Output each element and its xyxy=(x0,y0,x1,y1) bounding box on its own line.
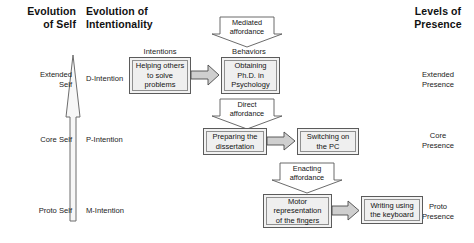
box-obtaining-phd-label: Obtaining Ph.D. in Psychology xyxy=(224,60,277,91)
presence-evolution-diagram: Evolution of Self Evolution of Intention… xyxy=(0,0,474,243)
box-preparing-dissertation-label: Preparing the dissertation xyxy=(206,131,264,152)
affordance-enacting: Enacting affordance xyxy=(272,163,342,193)
box-writing-keyboard-label: Writing using the keyboard xyxy=(364,199,420,221)
affordance-mediated: Mediated affordance xyxy=(212,17,282,47)
tier-label-core-self: Core Self xyxy=(8,135,72,145)
box-motor-representation-label: Motor representation of the fingers xyxy=(266,197,329,225)
box-switching-on-pc[interactable]: Switching on the PC xyxy=(297,128,359,155)
affordance-direct: Direct affordance xyxy=(212,99,282,129)
tier-label-extended-self: Extended Self xyxy=(8,70,72,89)
tier-label-p-intention: P-Intention xyxy=(86,135,166,145)
box-writing-keyboard[interactable]: Writing using the keyboard xyxy=(361,196,423,224)
caption-behaviors: Behaviors xyxy=(218,47,280,56)
caption-intentions: Intentions xyxy=(129,47,191,56)
flow-arrow-proto xyxy=(332,201,359,220)
heading-evolution-of-intentionality: Evolution of Intentionality xyxy=(86,5,196,30)
box-switching-on-pc-label: Switching on the PC xyxy=(300,131,356,152)
tier-label-m-intention: M-Intention xyxy=(86,206,166,216)
heading-levels-of-presence: Levels of Presence xyxy=(404,5,472,30)
flow-arrow-core xyxy=(267,132,295,150)
flow-arrow-extended xyxy=(191,65,219,85)
tier-label-proto-self: Proto Self xyxy=(8,206,72,216)
tier-label-core-presence: Core Presence xyxy=(404,131,472,150)
box-motor-representation[interactable]: Motor representation of the fingers xyxy=(263,194,332,228)
box-helping-others[interactable]: Helping others to solve problems xyxy=(129,57,191,94)
heading-evolution-of-self: Evolution of Self xyxy=(4,5,76,30)
box-obtaining-phd[interactable]: Obtaining Ph.D. in Psychology xyxy=(221,57,280,94)
tier-label-extended-presence: Extended Presence xyxy=(404,70,472,89)
box-helping-others-label: Helping others to solve problems xyxy=(132,60,188,91)
box-preparing-dissertation[interactable]: Preparing the dissertation xyxy=(203,128,267,155)
